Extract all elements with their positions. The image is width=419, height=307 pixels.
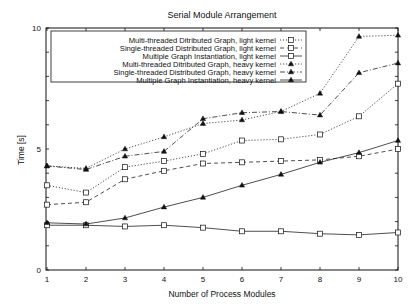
x-axis-label: Number of Process Modules xyxy=(168,289,275,299)
square-marker-icon xyxy=(396,230,401,235)
y-axis-label: Time [s] xyxy=(16,135,26,165)
square-marker-icon xyxy=(279,137,284,142)
chart-title: Serial Module Arrangement xyxy=(167,10,277,20)
square-marker-icon xyxy=(201,151,206,156)
x-tick-label: 5 xyxy=(201,275,206,284)
square-marker-icon xyxy=(396,147,401,152)
triangle-marker-icon xyxy=(395,60,400,65)
square-marker-icon xyxy=(240,229,245,234)
square-marker-icon xyxy=(162,159,167,164)
x-tick-label: 1 xyxy=(45,275,50,284)
x-tick-label: 8 xyxy=(318,275,323,284)
triangle-marker-icon xyxy=(395,32,400,37)
triangle-marker-icon xyxy=(356,34,361,39)
square-marker-icon xyxy=(289,54,294,59)
triangle-marker-icon xyxy=(278,109,283,114)
square-marker-icon xyxy=(84,190,89,195)
square-marker-icon xyxy=(123,224,128,229)
series-line xyxy=(44,138,400,226)
line-chart: Serial Module Arrangement 0510 123456789… xyxy=(0,0,419,307)
x-tick-label: 10 xyxy=(394,275,403,284)
x-tick-label: 6 xyxy=(240,275,245,284)
square-marker-icon xyxy=(396,81,401,86)
square-marker-icon xyxy=(201,225,206,230)
x-tick-label: 4 xyxy=(162,275,167,284)
triangle-marker-icon xyxy=(44,220,49,225)
x-tick-label: 2 xyxy=(84,275,89,284)
series-line xyxy=(45,81,401,195)
triangle-marker-icon xyxy=(239,110,244,115)
square-marker-icon xyxy=(318,231,323,236)
triangle-marker-icon xyxy=(161,134,166,139)
square-marker-icon xyxy=(162,223,167,228)
x-tick-label: 7 xyxy=(279,275,284,284)
square-marker-icon xyxy=(279,159,284,164)
y-tick-label: 10 xyxy=(32,24,41,33)
square-marker-icon xyxy=(289,38,294,43)
triangle-marker-icon xyxy=(395,138,400,143)
x-tick-label: 9 xyxy=(357,275,362,284)
square-marker-icon xyxy=(162,168,167,173)
legend: Multi-threaded Ditributed Graph, light k… xyxy=(51,31,306,85)
square-marker-icon xyxy=(45,183,50,188)
y-tick-label: 0 xyxy=(37,266,42,275)
y-tick-label: 5 xyxy=(37,145,42,154)
series-line xyxy=(45,223,401,238)
legend-item-label: Multiple Graph Instantiation, heavy kern… xyxy=(136,76,276,85)
triangle-marker-icon xyxy=(44,163,49,168)
x-tick-label: 3 xyxy=(123,275,128,284)
square-marker-icon xyxy=(318,132,323,137)
square-marker-icon xyxy=(240,138,245,143)
square-marker-icon xyxy=(123,165,128,170)
triangle-marker-icon xyxy=(161,149,166,154)
triangle-marker-icon xyxy=(200,121,205,126)
square-marker-icon xyxy=(357,114,362,119)
square-marker-icon xyxy=(45,202,50,207)
square-marker-icon xyxy=(123,177,128,182)
square-marker-icon xyxy=(289,46,294,51)
triangle-marker-icon xyxy=(239,117,244,122)
square-marker-icon xyxy=(279,229,284,234)
triangle-marker-icon xyxy=(317,91,322,96)
square-marker-icon xyxy=(201,161,206,166)
square-marker-icon xyxy=(84,200,89,205)
square-marker-icon xyxy=(357,232,362,237)
square-marker-icon xyxy=(240,160,245,165)
